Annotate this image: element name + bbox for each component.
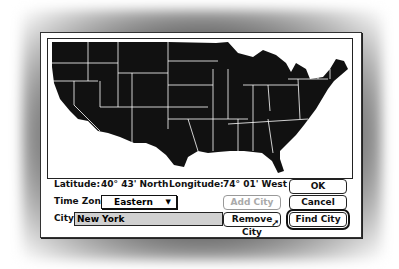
- find-city-button[interactable]: Find City: [289, 212, 347, 227]
- timezone-popup[interactable]: Eastern ▼: [101, 195, 177, 209]
- arrow-cursor-icon: ➚: [271, 217, 279, 228]
- chevron-down-icon: ▼: [166, 196, 171, 208]
- latitude-value: 40° 43' North: [101, 179, 168, 189]
- longitude-label: Longitude:: [169, 179, 224, 189]
- timezone-value: Eastern: [114, 196, 153, 208]
- ok-button[interactable]: OK: [289, 179, 347, 194]
- add-city-button[interactable]: Add City: [223, 195, 281, 210]
- us-map-graphic: [48, 39, 352, 178]
- city-input[interactable]: New York: [74, 212, 223, 226]
- longitude-value: 74° 01' West: [223, 179, 287, 189]
- latitude-label: Latitude:: [54, 179, 100, 189]
- cancel-button[interactable]: Cancel: [289, 195, 347, 210]
- us-map[interactable]: [47, 38, 353, 179]
- map-dialog: Latitude: 40° 43' North Longitude: 74° 0…: [40, 32, 362, 238]
